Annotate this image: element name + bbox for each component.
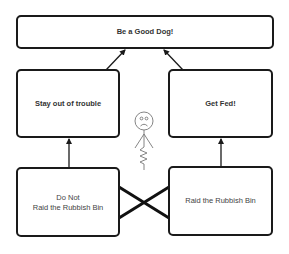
action-label-line1: Do Not xyxy=(33,193,103,203)
arrow-stay-to-goal xyxy=(106,50,125,70)
goal-box-stay-out-of-trouble: Stay out of trouble xyxy=(16,69,120,138)
action-label: Raid the Rubbish Bin xyxy=(185,196,255,206)
goal-box-get-fed: Get Fed! xyxy=(168,69,273,138)
arrow-fed-to-goal xyxy=(164,50,183,70)
action-label-line2: Raid the Rubbish Bin xyxy=(33,203,103,213)
stick-figure-icon xyxy=(135,112,153,170)
action-box-do-not-raid: Do Not Raid the Rubbish Bin xyxy=(16,167,120,237)
action-label: Do Not Raid the Rubbish Bin xyxy=(33,191,103,213)
action-box-raid: Raid the Rubbish Bin xyxy=(168,166,273,236)
cross-conflict-icon xyxy=(119,187,169,218)
top-goal-label: Be a Good Dog! xyxy=(117,27,174,37)
goal-label: Get Fed! xyxy=(205,99,235,109)
top-goal-box: Be a Good Dog! xyxy=(16,15,274,49)
goal-label: Stay out of trouble xyxy=(35,99,101,109)
